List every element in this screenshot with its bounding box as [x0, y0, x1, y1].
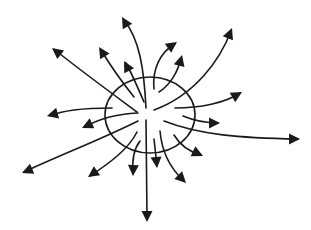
arrowhead-icon	[223, 26, 237, 40]
field-arrow-down-long	[142, 120, 153, 222]
field-line	[50, 108, 112, 116]
field-arrow-down-left	[85, 132, 137, 182]
arrowhead-icon	[191, 146, 206, 161]
arrowhead-icon	[174, 54, 187, 67]
field-arrow-up-left-long	[49, 44, 137, 112]
arrowhead-icon	[289, 134, 300, 145]
arrowhead-icon	[85, 166, 100, 181]
field-arrow-up-right-inner	[159, 54, 187, 92]
arrowhead-icon	[142, 211, 153, 222]
arrowhead-icon	[117, 14, 132, 29]
field-line	[90, 132, 137, 176]
arrowhead-icon	[128, 165, 139, 176]
field-arrow-right-lower	[174, 135, 205, 161]
field-arrow-down-short-left	[128, 141, 140, 176]
arrowhead-icon	[20, 164, 34, 178]
arrowhead-icon	[119, 58, 134, 73]
arrowhead-icon	[209, 118, 220, 129]
field-line	[164, 121, 298, 139]
field-arrows-group	[20, 14, 300, 222]
field-line	[146, 120, 147, 218]
field-line	[24, 121, 138, 172]
arrowhead-icon	[46, 108, 59, 121]
arrowhead-icon	[151, 157, 163, 169]
arrowhead-icon	[94, 44, 109, 59]
field-arrow-right-long	[164, 121, 300, 145]
field-line	[175, 93, 240, 108]
arrowhead-icon	[49, 44, 64, 59]
field-line	[154, 31, 231, 110]
arrowhead-icon	[230, 87, 245, 102]
field-arrow-right-upper	[175, 87, 245, 108]
field-arrow-down-left-long	[20, 121, 138, 178]
field-arrow-up-right-long	[154, 26, 237, 110]
field-arrow-right-short	[183, 116, 220, 129]
field-line	[55, 50, 137, 112]
field-lines-diagram	[0, 0, 311, 230]
arrowhead-icon	[80, 118, 95, 133]
